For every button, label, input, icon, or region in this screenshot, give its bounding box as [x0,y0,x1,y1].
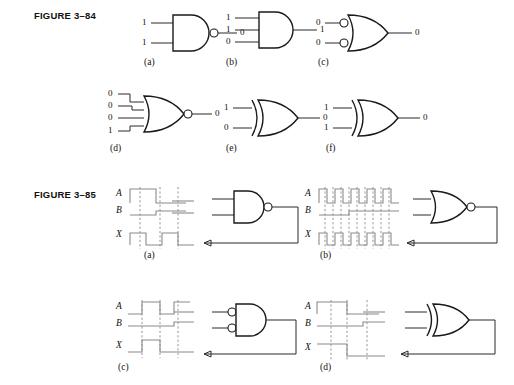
timing-block-3-85-b: A B X [305,185,510,255]
figure-label-3-84: FIGURE 3–84 [34,10,96,21]
signal-label-x: X [116,340,122,350]
input-bit: 1 [142,37,147,47]
caption-3-85-b: (b) [320,250,331,260]
signal-label-x: X [305,229,311,239]
signal-label-b: B [116,205,122,215]
input-bit: 1 [226,12,231,22]
signal-label-a: A [305,188,311,198]
caption-3-84-c: (c) [318,57,329,67]
input-bit: 1 [108,125,113,135]
caption-3-85-d: (d) [320,362,331,372]
timing-block-3-85-c: A B X [116,298,316,364]
timing-waveforms-a [116,185,316,255]
timing-waveforms-b [305,185,510,255]
input-bit: 1 [142,17,147,27]
timing-block-3-85-d: A B X [305,298,510,364]
timing-waveforms-d [305,298,510,364]
output-bit: 0 [415,27,420,37]
gate-3-84-d: 0 0 0 1 0 [108,88,228,144]
gate-3-84-e: 1 0 0 [224,97,339,141]
signal-label-a: A [116,301,122,311]
input-bit: 1 [324,102,329,112]
caption-3-84-e: (e) [226,143,237,153]
input-bit: 0 [108,112,113,122]
input-bit: 1 [226,24,231,34]
caption-3-85-c: (c) [118,362,129,372]
caption-3-84-b: (b) [226,57,237,67]
input-bit: 0 [224,122,229,132]
input-bit: 0 [316,17,321,27]
output-bit: 0 [423,112,428,122]
caption-3-85-a: (a) [144,250,155,260]
timing-block-3-85-a: A B X [116,185,316,255]
input-bit: 1 [224,102,229,112]
gate-3-84-f: 1 1 0 [324,97,439,141]
gate-3-84-c: 0 0 0 [316,12,431,56]
caption-3-84-d: (d) [110,143,121,153]
input-bit: 0 [108,100,113,110]
caption-3-84-a: (a) [144,57,155,67]
output-bit: 0 [215,108,220,118]
signal-label-b: B [305,318,311,328]
signal-label-b: B [305,205,311,215]
figure-label-3-85: FIGURE 3–85 [34,189,96,200]
signal-label-a: A [116,188,122,198]
signal-label-x: X [305,342,311,352]
caption-3-84-f: (f) [326,143,336,153]
timing-waveforms-c [116,298,316,364]
signal-label-b: B [116,318,122,328]
input-bit: 0 [108,88,113,98]
signal-label-a: A [305,301,311,311]
input-bit: 0 [316,37,321,47]
figure-page: FIGURE 3–84 1 1 0 (a) 1 1 0 1 (b) [0,0,514,385]
input-bit: 1 [324,122,329,132]
input-bit: 0 [226,36,231,46]
signal-label-x: X [116,229,122,239]
